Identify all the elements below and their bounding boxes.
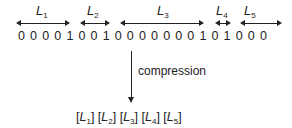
segment-label-l2: L2	[87, 4, 99, 22]
compression-arrow-line	[131, 51, 132, 99]
segment-arrow-l2	[84, 23, 106, 24]
compressed-result: [L1] [L2] [L3] [L4] [L5]	[76, 110, 182, 126]
segment-arrow-l3	[124, 23, 200, 24]
bit-sequence: 000010010000000101000	[18, 29, 272, 43]
segment-arrow-l4	[219, 23, 227, 24]
segment-label-l5: L5	[244, 4, 256, 22]
segment-label-l1: L1	[36, 4, 48, 22]
segment-label-l3: L3	[157, 4, 169, 22]
segment-arrow-l1	[20, 23, 66, 24]
compression-label: compression	[138, 64, 206, 78]
compression-arrow-head-icon	[128, 97, 134, 103]
segment-arrow-l5	[244, 23, 278, 24]
